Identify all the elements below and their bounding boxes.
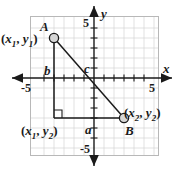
point-b-label: B <box>125 124 134 137</box>
vertex-coordinate-label: (x1, y2) <box>21 124 57 141</box>
point-b-coordinate-label: (x2, y2) <box>124 106 160 123</box>
paren-close: ) <box>33 31 37 46</box>
point-a-coordinate-label: (x1, y1) <box>1 32 37 49</box>
y-axis-up-arrow <box>89 6 99 17</box>
point-a-label: A <box>40 20 49 33</box>
x-tick-right-label: 5 <box>149 82 155 94</box>
side-label-c: c <box>84 62 90 75</box>
y-axis-label: y <box>101 7 107 20</box>
paren-close: ) <box>53 123 57 138</box>
paren-close: ) <box>156 105 160 120</box>
y-tick-bottom-label: -5 <box>80 143 90 155</box>
x-tick-left-label: -5 <box>21 82 31 94</box>
y-tick-top-label: 5 <box>83 17 89 29</box>
side-label-a: a <box>85 123 92 136</box>
x-axis-label: x <box>163 62 170 75</box>
side-label-b: b <box>44 64 51 77</box>
coordinate-plane-figure: x y 5 -5 -5 5 A (x1, y1) B (x2, y2) (x1,… <box>0 0 181 170</box>
y-axis-down-arrow <box>89 155 99 166</box>
point-a-marker <box>49 33 58 42</box>
